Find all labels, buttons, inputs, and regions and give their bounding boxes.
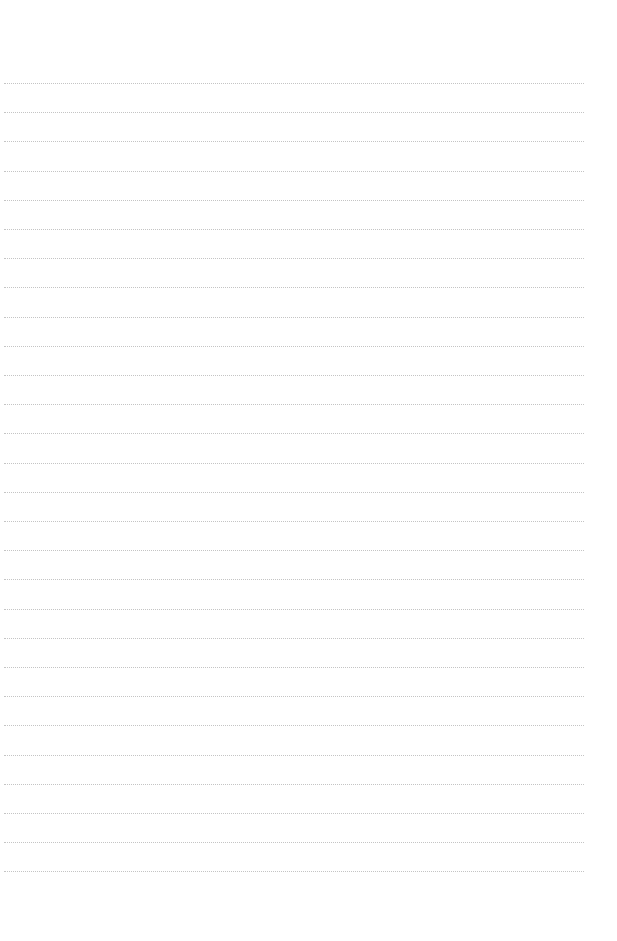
ruled-line bbox=[4, 317, 584, 318]
ruled-line bbox=[4, 229, 584, 230]
ruled-line bbox=[4, 667, 584, 668]
ruled-line bbox=[4, 375, 584, 376]
ruled-line bbox=[4, 433, 584, 434]
ruled-line bbox=[4, 550, 584, 551]
ruled-line bbox=[4, 579, 584, 580]
ruled-line bbox=[4, 871, 584, 872]
ruled-line bbox=[4, 609, 584, 610]
ruled-line bbox=[4, 200, 584, 201]
ruled-line bbox=[4, 696, 584, 697]
ruled-line bbox=[4, 521, 584, 522]
ruled-line bbox=[4, 83, 584, 84]
lined-paper-sheet bbox=[0, 0, 617, 941]
ruled-line bbox=[4, 725, 584, 726]
ruled-line bbox=[4, 112, 584, 113]
ruled-line bbox=[4, 842, 584, 843]
ruled-line bbox=[4, 346, 584, 347]
ruled-line bbox=[4, 463, 584, 464]
ruled-line bbox=[4, 492, 584, 493]
ruled-line bbox=[4, 141, 584, 142]
ruled-line bbox=[4, 813, 584, 814]
ruled-line bbox=[4, 638, 584, 639]
ruled-line bbox=[4, 755, 584, 756]
ruled-line bbox=[4, 404, 584, 405]
ruled-line bbox=[4, 784, 584, 785]
ruled-line bbox=[4, 258, 584, 259]
ruled-line bbox=[4, 287, 584, 288]
ruled-line bbox=[4, 171, 584, 172]
